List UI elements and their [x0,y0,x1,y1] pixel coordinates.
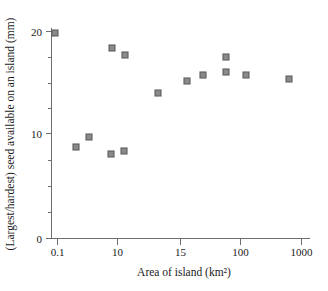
data-point [243,72,249,78]
data-point [108,151,114,157]
data-point [155,90,161,96]
data-point [223,54,229,60]
data-point [121,148,127,154]
data-point [73,144,79,150]
data-point [86,134,92,140]
data-point [52,30,58,36]
y-tick-label-20: 20 [31,26,43,38]
y-axis-title: (Largest/hardest) seed available on an i… [4,17,17,250]
x-tick-label-0-1: 0.1 [51,246,65,258]
data-point [109,45,115,51]
data-point [200,72,206,78]
data-point [122,52,128,58]
scatter-plot-figure: 20 10 0 0.1 10 15 100 1000 Area of islan… [0,0,328,291]
data-point [286,76,292,82]
data-point [223,69,229,75]
data-point [184,78,190,84]
x-axis-title: Area of island (km²) [137,266,231,279]
y-tick-label-0: 0 [37,233,43,245]
plot-canvas: 20 10 0 0.1 10 15 100 1000 Area of islan… [0,0,328,291]
x-tick-label-1000: 1000 [291,246,314,258]
data-point-group [52,30,292,157]
x-tick-label-100: 100 [232,246,249,258]
x-tick-label-15: 15 [175,246,187,258]
y-tick-label-10: 10 [31,128,43,140]
x-tick-label-10: 10 [112,246,124,258]
